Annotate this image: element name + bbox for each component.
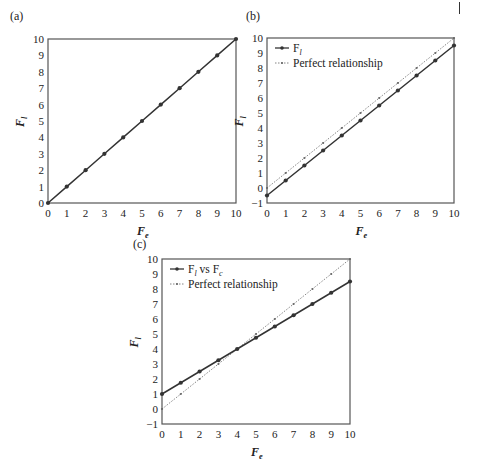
y-axis-label: Fl​	[232, 115, 248, 127]
chart-panel-b: (b)012345678910−1012345678910Fe​Fl​Fl​Pe…	[232, 9, 460, 240]
data-point	[330, 273, 332, 275]
y-tick-label: 9	[258, 47, 264, 59]
legend-entry-label: Fl​ vs Fc​	[188, 263, 223, 278]
data-point	[198, 369, 202, 373]
x-tick-label: 7	[177, 207, 183, 219]
data-point	[65, 185, 69, 189]
x-tick-label: 9	[214, 207, 220, 219]
y-tick-label: 5	[153, 328, 159, 340]
x-tick-label: 9	[328, 428, 334, 440]
data-point	[46, 201, 50, 205]
data-point	[265, 193, 269, 197]
data-point	[434, 52, 436, 54]
y-tick-label: 7	[39, 82, 45, 94]
x-tick-label: 4	[339, 207, 345, 219]
data-point	[255, 333, 257, 335]
x-tick-label: 0	[264, 207, 270, 219]
x-tick-label: 5	[358, 207, 364, 219]
x-tick-label: 8	[310, 428, 316, 440]
x-tick-label: 10	[231, 207, 243, 219]
data-point	[310, 302, 314, 306]
y-tick-label: 0	[39, 197, 45, 209]
x-tick-label: 4	[120, 207, 126, 219]
data-point	[179, 381, 183, 385]
data-point	[452, 43, 456, 47]
y-tick-label: 2	[39, 164, 45, 176]
x-tick-label: 8	[414, 207, 420, 219]
y-tick-label: 9	[39, 49, 45, 61]
figure-canvas: (a)012345678910012345678910Fe​Fl​(b)0123…	[0, 0, 477, 469]
data-point	[292, 313, 296, 317]
panel-label: (c)	[133, 237, 146, 251]
y-tick-label: −1	[146, 418, 158, 430]
x-tick-label: 10	[345, 428, 357, 440]
data-point	[215, 53, 219, 57]
x-tick-label: 6	[376, 207, 382, 219]
data-point	[266, 187, 268, 189]
data-point	[234, 37, 238, 41]
y-tick-label: 3	[153, 358, 159, 370]
y-tick-label: 0	[153, 403, 159, 415]
x-tick-label: 8	[196, 207, 202, 219]
x-tick-label: 2	[302, 207, 308, 219]
x-tick-label: 3	[216, 428, 222, 440]
y-tick-label: 7	[153, 298, 159, 310]
data-point	[358, 118, 362, 122]
x-tick-label: 3	[102, 207, 108, 219]
x-tick-label: 10	[449, 207, 461, 219]
y-tick-label: 10	[33, 33, 45, 45]
data-point	[293, 303, 295, 305]
x-tick-label: 5	[253, 428, 259, 440]
data-point	[329, 291, 333, 295]
y-tick-label: 4	[39, 131, 45, 143]
data-point	[84, 168, 88, 172]
data-point	[102, 152, 106, 156]
x-tick-label: 6	[158, 207, 164, 219]
x-axis-label: Fe​	[250, 445, 263, 461]
x-tick-label: 1	[283, 207, 289, 219]
data-point	[274, 318, 276, 320]
legend-entry-label: Perfect relationship	[188, 278, 278, 291]
data-point	[161, 408, 163, 410]
data-point	[235, 347, 239, 351]
x-tick-label: 4	[234, 428, 240, 440]
data-point	[311, 288, 313, 290]
data-point	[178, 86, 182, 90]
x-tick-label: 2	[197, 428, 203, 440]
y-tick-label: 5	[258, 107, 264, 119]
data-point	[359, 112, 361, 114]
data-point	[273, 324, 277, 328]
data-point	[160, 392, 164, 396]
y-tick-label: 6	[39, 99, 45, 111]
y-tick-label: 7	[258, 77, 264, 89]
panel-label: (a)	[10, 9, 23, 23]
y-tick-label: 1	[153, 388, 159, 400]
x-axis-label: Fe​	[355, 224, 368, 240]
data-point	[396, 88, 400, 92]
data-point	[415, 73, 419, 77]
y-tick-label: 4	[258, 122, 264, 134]
x-tick-label: 7	[291, 428, 297, 440]
y-tick-label: 3	[258, 137, 264, 149]
data-point	[341, 127, 343, 129]
legend-entry-label: Perfect relationship	[293, 57, 383, 70]
x-tick-label: 5	[139, 207, 145, 219]
data-point	[349, 258, 351, 260]
x-tick-label: 0	[159, 428, 165, 440]
y-axis-label: Fl​	[127, 336, 143, 348]
x-tick-label: 7	[395, 207, 401, 219]
data-point	[302, 163, 306, 167]
data-point	[159, 103, 163, 107]
y-tick-label: 6	[258, 92, 264, 104]
x-tick-label: 1	[64, 207, 70, 219]
data-point	[303, 157, 305, 159]
y-tick-label: 3	[39, 148, 45, 160]
y-tick-label: 1	[258, 167, 264, 179]
data-point	[254, 336, 258, 340]
y-axis-label: Fl​	[13, 116, 29, 128]
x-tick-label: 0	[45, 207, 51, 219]
data-point	[433, 58, 437, 62]
x-tick-label: 6	[272, 428, 278, 440]
data-point	[416, 67, 418, 69]
y-tick-label: 6	[153, 313, 159, 325]
